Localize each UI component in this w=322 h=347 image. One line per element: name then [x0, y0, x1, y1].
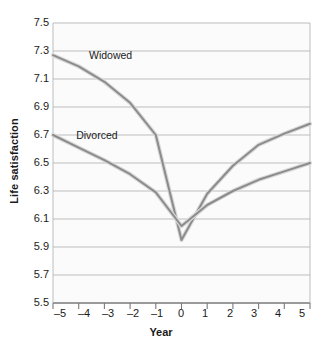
plot-area	[0, 0, 322, 347]
series-label-divorced: Divorced	[76, 129, 117, 141]
x-axis-title: Year	[0, 326, 322, 338]
life-satisfaction-line-chart: Life satisfaction 7.5 7.3 7.1 6.9 6.7 6.…	[0, 0, 322, 347]
series-label-widowed: Widowed	[89, 49, 132, 61]
